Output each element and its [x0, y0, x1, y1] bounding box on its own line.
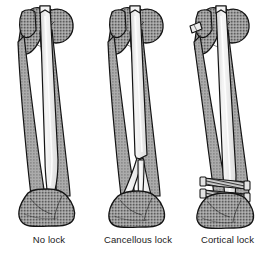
caption-no-lock: No lock — [0, 234, 98, 245]
panel-no-lock: No lock — [0, 0, 98, 253]
panel-cortical-lock: Cortical lock — [180, 0, 275, 253]
caption-cancellous-lock: Cancellous lock — [88, 234, 188, 245]
distal-femur-condyles-cancellous — [109, 191, 165, 227]
femur-nail-fixation-figure: No lock — [0, 0, 275, 253]
distal-femur-condyles-no-lock — [19, 189, 75, 226]
femur-diagram-cortical-lock — [180, 0, 275, 232]
caption-cortical-lock: Cortical lock — [180, 234, 275, 245]
panel-cancellous-lock: Cancellous lock — [88, 0, 188, 253]
distal-femur-condyles-cortical — [197, 193, 254, 228]
femur-diagram-cancellous-lock — [88, 0, 188, 232]
femur-diagram-no-lock — [0, 0, 98, 232]
